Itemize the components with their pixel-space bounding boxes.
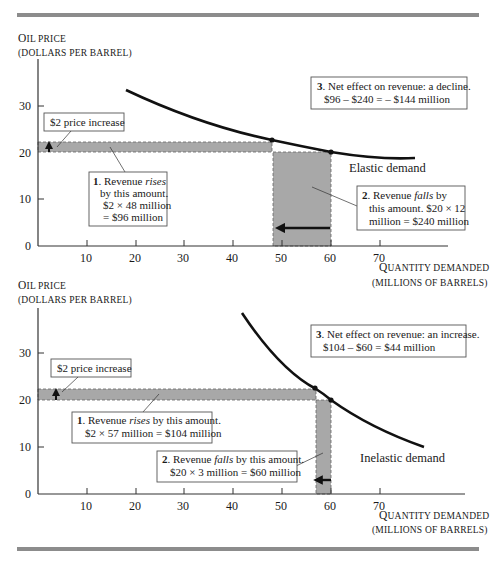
- x-tick-20: 20: [129, 251, 141, 265]
- x-tick-10: 10: [80, 251, 92, 265]
- box2-line1: 2. Revenue falls by: [362, 189, 447, 201]
- y-axis-label: OIL PRICE: [18, 32, 66, 44]
- price-increase-label: $2 price increase: [57, 362, 132, 374]
- top-rule: [17, 13, 479, 17]
- figure: OIL PRICE (DOLLARS PER BARREL) 30 20 10 …: [0, 0, 494, 563]
- box1-line2: by this amount.: [100, 187, 168, 199]
- point-b: [328, 397, 333, 402]
- box2-line1: 2. Revenue falls by this amount.: [162, 453, 304, 465]
- y-axis-label: OIL PRICE: [18, 279, 66, 291]
- x-tick-30: 30: [177, 251, 189, 265]
- box2-line2: $20 × 3 million = $60 million: [170, 466, 301, 478]
- x-axis-sublabel: (MILLIONS OF BARRELS): [372, 278, 488, 289]
- price-increase-label: $2 price increase: [50, 116, 125, 128]
- x-tick-40: 40: [226, 251, 238, 265]
- box1-line4: = $96 million: [103, 211, 163, 223]
- y-tick-0: 0: [25, 487, 31, 501]
- x-tick-50: 50: [275, 251, 287, 265]
- y-axis-sublabel: (DOLLARS PER BARREL): [18, 295, 132, 306]
- point-b: [328, 149, 333, 154]
- x-tick-20: 20: [129, 499, 141, 513]
- y-tick-20: 20: [19, 146, 31, 160]
- x-tick-60: 60: [324, 251, 336, 265]
- y-tick-10: 10: [19, 192, 31, 206]
- box3-line1: 3. Net effect on revenue: an increase.: [316, 328, 480, 340]
- y-tick-30: 30: [19, 346, 31, 360]
- x-axis-label: QUANTITY DEMANDED: [379, 261, 489, 273]
- box1-line3: $2 × 48 million: [103, 199, 172, 211]
- y-tick-0: 0: [25, 239, 31, 253]
- x-tick-60: 60: [324, 499, 336, 513]
- point-a: [269, 137, 274, 142]
- x-axis-label: QUANTITY DEMANDED: [379, 509, 489, 521]
- point-a: [312, 385, 317, 390]
- x-axis-sublabel: (MILLIONS OF BARRELS): [372, 525, 488, 536]
- box3-line1: 3. Net effect on revenue: a decline.: [317, 80, 471, 92]
- x-tick-30: 30: [177, 499, 189, 513]
- box2-line2: this amount. $20 × 12: [369, 202, 465, 214]
- revenue-gain-region: [38, 389, 316, 400]
- x-tick-40: 40: [226, 499, 238, 513]
- box2-line3: million = $240 million: [369, 215, 470, 227]
- box3-line2: $104 – $60 = $44 million: [323, 341, 436, 353]
- box1-line1: 1. Revenue rises by this amount.: [77, 414, 221, 426]
- y-tick-30: 30: [19, 99, 31, 113]
- chart-elastic: OIL PRICE (DOLLARS PER BARREL) 30 20 10 …: [18, 32, 489, 289]
- bottom-rule: [17, 547, 479, 551]
- y-tick-20: 20: [19, 393, 31, 407]
- curve-label-inelastic: Inelastic demand: [360, 451, 446, 465]
- box1-line1: 1. Revenue rises: [93, 175, 166, 187]
- y-tick-10: 10: [19, 440, 31, 454]
- box1-line2: $2 × 57 million = $104 million: [85, 427, 222, 439]
- y-axis-sublabel: (DOLLARS PER BARREL): [18, 48, 132, 59]
- box3-line2: $96 – $240 = – $144 million: [324, 93, 450, 105]
- revenue-gain-region: [38, 142, 272, 152]
- x-tick-10: 10: [80, 499, 92, 513]
- x-tick-50: 50: [275, 499, 287, 513]
- chart-inelastic: OIL PRICE (DOLLARS PER BARREL) 30 20 10 …: [18, 279, 489, 536]
- revenue-loss-region: [273, 152, 331, 246]
- curve-label-elastic: Elastic demand: [349, 161, 426, 175]
